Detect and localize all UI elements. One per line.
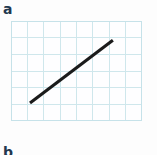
- panel-label-a: a: [3, 1, 21, 17]
- data-series-line: [30, 40, 113, 103]
- panel-label-b: b: [3, 144, 21, 155]
- figure-panel-a: a b: [0, 0, 157, 155]
- grid-plot-area: [11, 21, 142, 121]
- grid-chart-svg: [11, 21, 142, 121]
